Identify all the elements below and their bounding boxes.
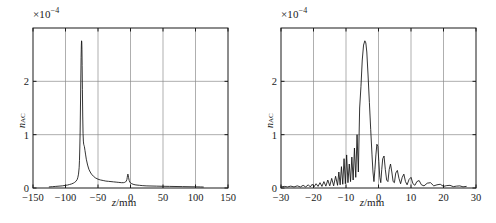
gridlines-right [281, 28, 476, 188]
x-axis-label-right: z/mm [248, 196, 496, 208]
y-tick-label: 0 [261, 183, 277, 194]
plot-area-left [0, 0, 248, 223]
gridlines-left [33, 28, 228, 188]
x-axis-label-left: z/mm [0, 196, 248, 208]
data-curve-right [281, 41, 466, 187]
y-tick-label: 2 [261, 76, 277, 87]
chart-panel-left: ×10−4 nAC −150−100−50050100150 012 z/mm [0, 0, 248, 223]
chart-panel-right: ×10−4 nAC −30−20−100102030 012 z/mm [248, 0, 496, 223]
y-tick-label: 1 [261, 129, 277, 140]
y-tick-label: 2 [13, 76, 29, 87]
plot-area-right [248, 0, 496, 223]
y-tick-label: 1 [13, 129, 29, 140]
y-tick-label: 0 [13, 183, 29, 194]
figure-container: ×10−4 nAC −150−100−50050100150 012 z/mm … [0, 0, 496, 223]
data-curve-left [49, 41, 203, 187]
